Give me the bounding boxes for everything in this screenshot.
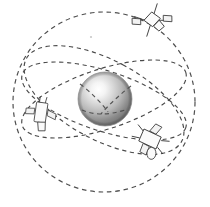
satellite-constellation-figure (0, 0, 210, 207)
diagram-canvas (0, 0, 210, 207)
solar-panel-left (25, 107, 34, 115)
satellite-top-right (130, 0, 175, 41)
antenna-dish (147, 147, 157, 159)
central-sphere (78, 72, 132, 126)
solar-panel-right (161, 12, 175, 26)
satellite-bottom-right (126, 117, 173, 165)
solar-panel-right (47, 110, 57, 120)
antenna-dish (36, 121, 46, 132)
satellite-bus (34, 102, 48, 123)
satellite-left (23, 95, 58, 133)
speck-mark (90, 36, 92, 38)
